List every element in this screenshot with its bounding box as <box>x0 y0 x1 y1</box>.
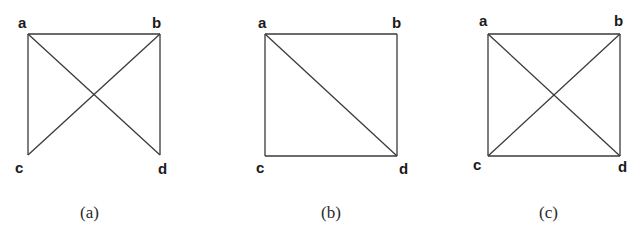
edges <box>488 34 620 156</box>
edges <box>265 34 397 156</box>
edges <box>28 34 160 155</box>
panel-b: a b c d (b) <box>256 14 408 222</box>
vertex-label-a: a <box>258 14 267 31</box>
vertex-label-d: d <box>399 160 408 177</box>
graph-figure: a b c d (a) a b c d (b) a b c d <box>0 0 642 247</box>
caption-a: (a) <box>80 203 99 222</box>
vertex-label-b: b <box>392 14 401 31</box>
vertex-label-b: b <box>152 14 161 31</box>
vertex-label-c: c <box>15 159 23 176</box>
vertex-label-b: b <box>614 12 623 29</box>
vertex-label-d: d <box>158 160 167 177</box>
vertex-label-d: d <box>618 158 627 175</box>
vertex-label-a: a <box>18 14 27 31</box>
vertex-label-a: a <box>479 12 488 29</box>
panel-a: a b c d (a) <box>15 14 167 222</box>
caption-b: (b) <box>321 203 341 222</box>
edge-a-d <box>265 34 397 156</box>
vertex-label-c: c <box>473 156 481 173</box>
caption-c: (c) <box>539 203 558 222</box>
vertex-label-c: c <box>256 159 264 176</box>
panel-c: a b c d (c) <box>473 12 627 222</box>
